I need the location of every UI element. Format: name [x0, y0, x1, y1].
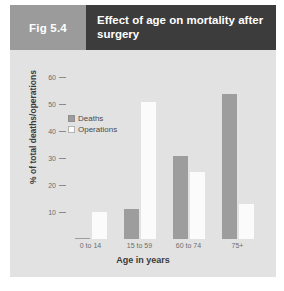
bar-deaths[interactable]: [124, 209, 139, 239]
chart-plot-area: % of total deaths/operations 10203040506…: [10, 50, 276, 277]
x-axis-category-label: 75+: [215, 242, 261, 249]
y-axis-tick: 20: [48, 181, 66, 189]
figure-title: Effect of age on mortality after surgery: [86, 5, 276, 50]
bar-operations[interactable]: [92, 212, 107, 239]
x-axis-category-label: 0 to 14: [68, 242, 114, 249]
x-axis-category-label: 15 to 59: [117, 242, 163, 249]
y-axis-tick-mark: [59, 77, 66, 78]
bar-group: [117, 72, 163, 239]
y-axis-ticks: 102030405060: [34, 72, 66, 217]
bar-operations[interactable]: [141, 102, 156, 239]
figure-header: Fig 5.4 Effect of age on mortality after…: [10, 5, 276, 50]
bar-group: [68, 72, 114, 239]
y-axis-tick: 30: [48, 154, 66, 162]
y-axis-tick: 50: [48, 100, 66, 108]
x-axis-label: Age in years: [10, 255, 276, 265]
y-axis-tick-label: 60: [48, 74, 56, 81]
y-axis-tick-mark: [59, 158, 66, 159]
y-axis-tick-mark: [59, 212, 66, 213]
bar-group: [166, 72, 212, 239]
x-axis-categories: 0 to 1415 to 5960 to 7475+: [66, 242, 262, 249]
bar-deaths[interactable]: [173, 156, 188, 240]
y-axis-tick-label: 20: [48, 182, 56, 189]
y-axis-tick-mark: [59, 185, 66, 186]
y-axis-tick-label: 30: [48, 155, 56, 162]
bar-deaths[interactable]: [222, 94, 237, 239]
y-axis-tick-label: 50: [48, 101, 56, 108]
bar-operations[interactable]: [239, 204, 254, 239]
bar-groups: [66, 72, 262, 239]
bar-operations[interactable]: [190, 172, 205, 239]
y-axis-tick-label: 10: [48, 209, 56, 216]
y-axis-tick: 40: [48, 127, 66, 135]
figure-panel: Fig 5.4 Effect of age on mortality after…: [10, 5, 276, 277]
bar-deaths[interactable]: [75, 238, 90, 240]
y-axis-tick: 10: [48, 208, 66, 216]
x-axis-category-label: 60 to 74: [166, 242, 212, 249]
y-axis-tick-mark: [59, 104, 66, 105]
figure-number: Fig 5.4: [10, 5, 86, 50]
y-axis-tick-mark: [59, 131, 66, 132]
y-axis-tick: 60: [48, 73, 66, 81]
y-axis-tick-label: 40: [48, 128, 56, 135]
bar-group: [215, 72, 261, 239]
